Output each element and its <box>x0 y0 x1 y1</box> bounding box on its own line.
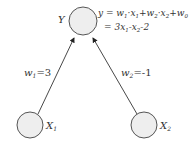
node-x2-label: X2 <box>159 120 171 132</box>
equation-line-2: = 3x1-x2-2 <box>104 22 149 33</box>
perceptron-diagram: Y X1 X2 w1=3 w2=-1 y = w1·x1+w2·x2+w0 = … <box>0 0 191 146</box>
node-x1 <box>17 112 43 138</box>
edge-w1-label: w1=3 <box>24 67 51 79</box>
edge-w2-label: w2=-1 <box>121 67 152 79</box>
node-x2 <box>131 112 157 138</box>
node-y <box>69 7 97 35</box>
node-y-label: Y <box>58 14 66 25</box>
node-x1-label: X1 <box>45 120 57 132</box>
equation-line-1: y = w1·x1+w2·x2+w0 <box>97 8 188 19</box>
